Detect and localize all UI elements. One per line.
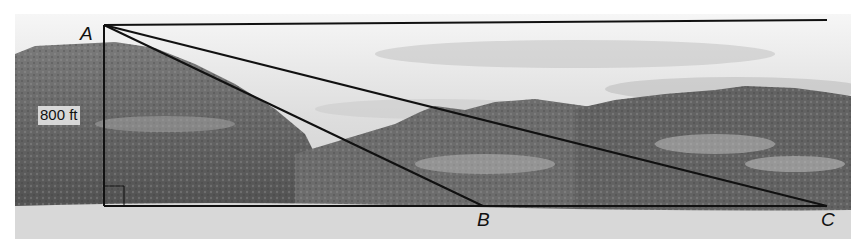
point-label-c: C bbox=[821, 210, 835, 229]
point-label-b: B bbox=[477, 210, 490, 229]
point-label-a: A bbox=[80, 24, 93, 43]
horizontal-line-of-sight bbox=[104, 20, 827, 25]
line-of-sight-to-C bbox=[104, 25, 827, 206]
triangle-overlay bbox=[0, 0, 863, 246]
right-angle-marker bbox=[104, 186, 124, 206]
line-of-sight-to-B bbox=[104, 25, 483, 206]
height-measurement-label: 800 ft bbox=[38, 106, 80, 125]
